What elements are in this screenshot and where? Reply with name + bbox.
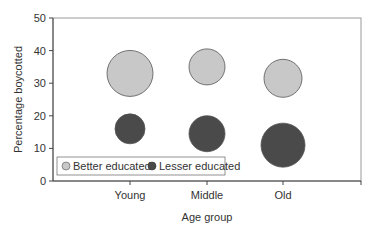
- x-tick-label: Old: [274, 189, 291, 201]
- bubble: [115, 114, 145, 144]
- bubble: [189, 116, 225, 152]
- bubble: [264, 59, 302, 97]
- legend-marker-lesser: [148, 162, 156, 170]
- bubble: [261, 123, 305, 167]
- y-tick-label: 50: [34, 12, 46, 24]
- y-tick-label: 30: [34, 77, 46, 89]
- plot-frame: [53, 18, 361, 181]
- y-axis-label: Percentage boycotted: [12, 46, 24, 153]
- y-tick-label: 10: [34, 142, 46, 154]
- legend-marker-better: [62, 162, 70, 170]
- legend-label-lesser: Lesser educated: [159, 160, 240, 172]
- x-tick-label: Young: [115, 189, 146, 201]
- bubble-chart: 01020304050YoungMiddleOldAge groupPercen…: [0, 0, 373, 232]
- y-tick-label: 0: [40, 175, 46, 187]
- y-tick-label: 40: [34, 45, 46, 57]
- y-tick-label: 20: [34, 110, 46, 122]
- bubble: [189, 49, 225, 85]
- x-tick-label: Middle: [191, 189, 223, 201]
- x-axis-label: Age group: [182, 211, 233, 223]
- legend-label-better: Better educated: [73, 160, 151, 172]
- bubble: [107, 50, 153, 96]
